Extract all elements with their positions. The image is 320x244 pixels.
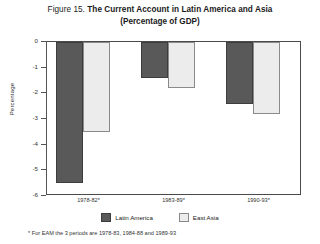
- bar-group: [131, 42, 216, 195]
- chart-legend: Latin America East Asia: [0, 213, 320, 222]
- y-axis-tick-label: -5: [20, 165, 38, 172]
- y-axis-tick: [41, 195, 46, 196]
- plot-area: 0-1-2-3-4-5-6 Percentage 1978-82*1983-89…: [0, 0, 320, 244]
- x-axis-category-labels: 1978-82*1983-89*1990-93*: [46, 197, 301, 207]
- bars-layer: [46, 42, 301, 195]
- x-axis-label: 1978-82*: [46, 197, 131, 203]
- y-axis-tick-label: -6: [20, 191, 38, 198]
- bar-east-asia: [168, 42, 195, 88]
- bar-latin-america: [141, 42, 168, 78]
- y-axis-tick-label: -2: [20, 88, 38, 95]
- legend-label-east-asia: East Asia: [193, 214, 219, 221]
- y-axis-tick-label: -3: [20, 114, 38, 121]
- legend-item-east-asia: East Asia: [179, 213, 219, 222]
- legend-label-latin-america: Latin America: [115, 214, 153, 221]
- y-axis-tick-label: 0: [20, 37, 38, 44]
- bar-east-asia: [83, 42, 110, 132]
- x-axis-label: 1990-93*: [216, 197, 301, 203]
- bar-east-asia: [253, 42, 280, 114]
- east-asia-swatch-icon: [179, 213, 189, 222]
- y-axis-tick-label: -1: [20, 63, 38, 70]
- y-axis-tick-label: -4: [20, 140, 38, 147]
- bar-latin-america: [56, 42, 83, 183]
- figure-footnote: * For EAM the 3 periods are 1978-83, 198…: [28, 230, 176, 236]
- bar-group: [216, 42, 301, 195]
- bar-latin-america: [226, 42, 253, 104]
- latin-america-swatch-icon: [101, 213, 111, 222]
- x-axis-label: 1983-89*: [131, 197, 216, 203]
- y-axis-title: Percentage: [9, 69, 15, 129]
- figure-container: Figure 15. The Current Account in Latin …: [0, 0, 320, 244]
- bar-group: [46, 42, 131, 195]
- legend-item-latin-america: Latin America: [101, 213, 153, 222]
